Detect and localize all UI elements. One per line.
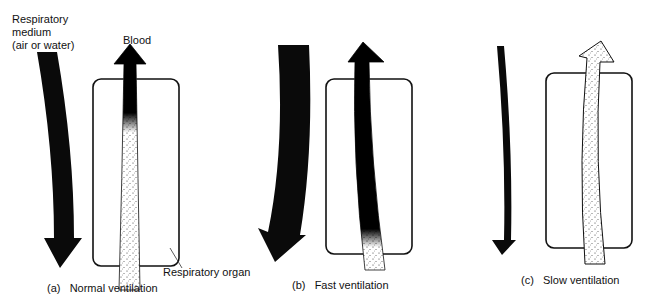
- ventilation-diagram: [0, 0, 651, 303]
- blood-arrow-c: [579, 41, 614, 264]
- medium-arrow-a: [37, 52, 82, 268]
- panel-caption: Slow ventilation: [543, 274, 619, 286]
- caption-b: (b) Fast ventilation: [292, 279, 389, 292]
- medium-arrow-c: [492, 46, 516, 255]
- panel-letter: (a): [47, 282, 60, 294]
- caption-c: (c) Slow ventilation: [521, 274, 619, 287]
- panel-letter: (b): [292, 279, 305, 291]
- respiratory-organ-label: Respiratory organ: [163, 266, 250, 279]
- panel-c: [492, 41, 632, 264]
- blood-arrow-b: [348, 42, 385, 270]
- respiratory-medium-label: Respiratory medium (air or water): [12, 13, 74, 52]
- label-line: (air or water): [12, 39, 74, 52]
- blood-arrow-a: [114, 44, 146, 290]
- label-line: medium: [12, 26, 74, 39]
- medium-arrow-b: [258, 45, 310, 262]
- panel-caption: Normal ventilation: [70, 282, 158, 294]
- panel-a: [37, 44, 182, 290]
- caption-a: (a) Normal ventilation: [47, 282, 158, 295]
- blood-label: Blood: [123, 34, 151, 47]
- panel-letter: (c): [521, 274, 534, 286]
- panel-caption: Fast ventilation: [315, 279, 389, 291]
- label-line: Respiratory: [12, 13, 74, 26]
- panel-b: [258, 42, 412, 270]
